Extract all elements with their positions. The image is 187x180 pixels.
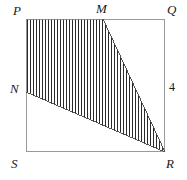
vertex-label-n: N (10, 82, 19, 95)
side-length-label-qr: 4 (169, 81, 175, 93)
vertex-label-m: M (96, 2, 107, 15)
vertex-label-s: S (11, 157, 18, 170)
geometry-figure: P M Q N S R 4 (0, 0, 187, 180)
geometry-canvas (0, 0, 187, 180)
vertex-label-q: Q (167, 3, 176, 16)
vertex-label-p: P (13, 4, 21, 17)
vertex-label-r: R (166, 157, 174, 170)
